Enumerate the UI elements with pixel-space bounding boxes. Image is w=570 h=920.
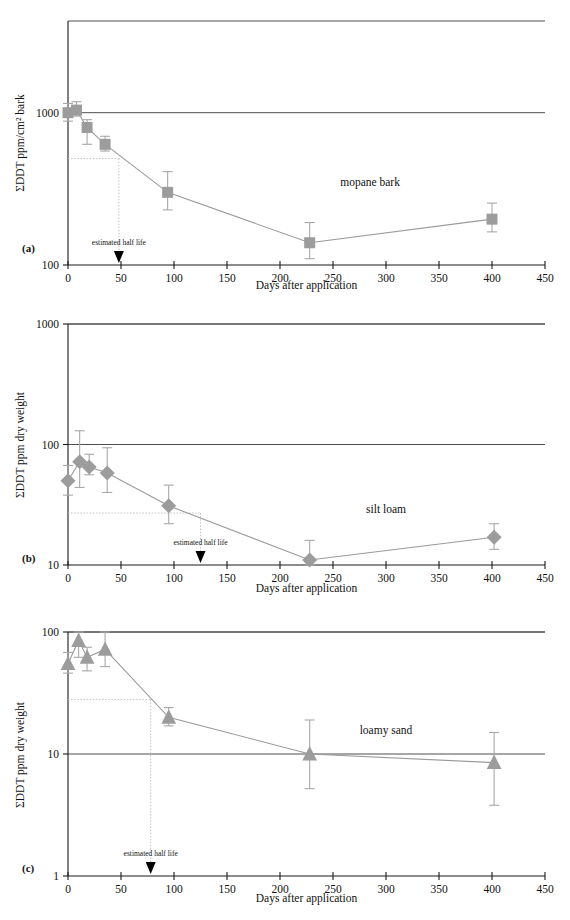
x-axis-tick-label: 100 bbox=[165, 272, 183, 284]
x-axis-tick-label: 300 bbox=[377, 883, 395, 895]
x-axis-tick-label: 50 bbox=[115, 883, 127, 895]
data-point-triangle bbox=[80, 649, 95, 663]
x-axis-tick-label: 100 bbox=[165, 572, 183, 584]
data-point-triangle bbox=[98, 641, 113, 655]
x-axis-tick-label: 0 bbox=[65, 572, 71, 584]
series-inline-label: silt loam bbox=[366, 503, 406, 515]
data-point-triangle bbox=[61, 656, 76, 670]
y-axis-tick-label: 100 bbox=[42, 439, 60, 451]
chart-panel-b: 101001000050100150200250300350400450Days… bbox=[0, 300, 570, 610]
series-line bbox=[68, 110, 492, 243]
series-inline-label: mopane bark bbox=[340, 176, 400, 189]
halflife-arrow-icon bbox=[146, 862, 156, 874]
x-axis-tick-label: 350 bbox=[430, 272, 448, 284]
data-point-triangle bbox=[71, 633, 86, 647]
x-axis-tick-label: 150 bbox=[218, 272, 236, 284]
y-axis-tick-label: 1000 bbox=[36, 107, 59, 119]
data-point-square bbox=[162, 187, 173, 198]
x-axis-tick-label: 350 bbox=[430, 572, 448, 584]
x-axis-tick-label: 0 bbox=[65, 272, 71, 284]
panel-letter: (a) bbox=[22, 242, 35, 255]
x-axis-tick-label: 50 bbox=[115, 272, 127, 284]
data-point-square bbox=[71, 105, 82, 116]
x-axis-tick-label: 300 bbox=[377, 572, 395, 584]
data-point-square bbox=[487, 214, 498, 225]
y-axis-tick-label: 1 bbox=[53, 870, 59, 882]
y-axis-tick-label: 1000 bbox=[36, 318, 59, 330]
x-axis-tick-label: 350 bbox=[430, 883, 448, 895]
halflife-arrow-icon bbox=[196, 551, 206, 563]
x-axis-tick-label: 400 bbox=[483, 883, 501, 895]
x-axis-tick-label: 400 bbox=[483, 272, 501, 284]
data-point-diamond bbox=[487, 530, 502, 545]
series-line bbox=[68, 641, 494, 763]
data-point-diamond bbox=[161, 498, 176, 513]
ddt-decay-figure: 1001000050100150200250300350400450Days a… bbox=[0, 0, 570, 920]
halflife-annotation-label: estimated half life bbox=[173, 538, 228, 547]
data-point-diamond bbox=[100, 466, 115, 481]
x-axis-tick-label: 0 bbox=[65, 883, 71, 895]
panel-b-plot: 101001000050100150200250300350400450Days… bbox=[0, 300, 570, 610]
halflife-annotation-label: estimated half life bbox=[124, 849, 179, 858]
y-axis-title: ΣDDT ppm/cm² bark bbox=[14, 94, 27, 192]
x-axis-tick-label: 50 bbox=[115, 572, 127, 584]
data-point-square bbox=[82, 122, 93, 133]
series-line bbox=[68, 462, 494, 560]
x-axis-title: Days after application bbox=[256, 892, 358, 905]
data-point-square bbox=[304, 237, 315, 248]
chart-panel-a: 1001000050100150200250300350400450Days a… bbox=[0, 0, 570, 300]
x-axis-title: Days after application bbox=[256, 279, 358, 292]
data-point-diamond bbox=[61, 473, 76, 488]
chart-panel-c: 110100050100150200250300350400450Days af… bbox=[0, 610, 570, 920]
halflife-annotation-label: estimated half life bbox=[92, 238, 147, 247]
y-axis-tick-label: 100 bbox=[42, 626, 60, 638]
y-axis-tick-label: 100 bbox=[42, 259, 60, 271]
x-axis-tick-label: 100 bbox=[165, 883, 183, 895]
data-point-triangle bbox=[487, 755, 502, 769]
y-axis-tick-label: 10 bbox=[48, 748, 60, 760]
x-axis-title: Days after application bbox=[256, 582, 358, 595]
x-axis-tick-label: 150 bbox=[218, 572, 236, 584]
x-axis-tick-label: 400 bbox=[483, 572, 501, 584]
halflife-arrow-icon bbox=[114, 251, 124, 263]
panel-a-plot: 1001000050100150200250300350400450Days a… bbox=[0, 0, 570, 300]
y-axis-tick-label: 10 bbox=[48, 559, 60, 571]
x-axis-tick-label: 450 bbox=[536, 883, 554, 895]
y-axis-title: ΣDDT ppm dry weight bbox=[14, 701, 27, 808]
x-axis-tick-label: 300 bbox=[377, 272, 395, 284]
panel-c-plot: 110100050100150200250300350400450Days af… bbox=[0, 610, 570, 920]
x-axis-tick-label: 450 bbox=[536, 272, 554, 284]
x-axis-tick-label: 150 bbox=[218, 883, 236, 895]
data-point-square bbox=[100, 139, 111, 150]
series-inline-label: loamy sand bbox=[360, 724, 413, 737]
x-axis-tick-label: 450 bbox=[536, 572, 554, 584]
panel-letter: (b) bbox=[22, 552, 36, 565]
panel-letter: (c) bbox=[22, 862, 35, 875]
y-axis-title: ΣDDT ppm dry weight bbox=[14, 391, 27, 498]
